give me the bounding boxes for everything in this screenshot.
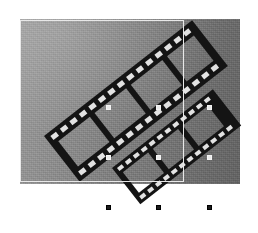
handle-middle-center[interactable] [156,105,161,110]
handle-bottom-right[interactable] [207,205,212,210]
handle-lower-left[interactable] [106,155,111,160]
handle-bottom-left[interactable] [106,205,111,210]
handle-middle-right[interactable] [207,105,212,110]
handle-bottom-center[interactable] [156,205,161,210]
handle-lower-right[interactable] [207,155,212,160]
filmstrip-selection-canvas [0,0,258,233]
handle-middle-left[interactable] [106,105,111,110]
handle-lower-center[interactable] [156,155,161,160]
